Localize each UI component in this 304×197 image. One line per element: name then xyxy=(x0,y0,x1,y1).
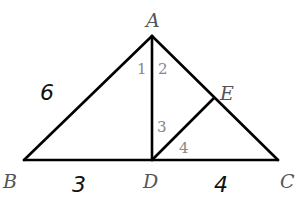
length-label-DC: 4 xyxy=(214,172,228,197)
point-label-B: B xyxy=(2,170,17,192)
angle-label-1: 1 xyxy=(137,60,147,78)
angle-label-2: 2 xyxy=(158,60,168,78)
length-label-BD: 3 xyxy=(72,172,86,197)
point-label-E: E xyxy=(219,82,234,104)
geometry-diagram: A B D C E 1 2 3 4 6 3 4 xyxy=(0,0,304,197)
point-label-C: C xyxy=(280,170,295,192)
triangle-figure: A B D C E 1 2 3 4 6 3 4 xyxy=(0,0,304,197)
angle-label-3: 3 xyxy=(157,118,167,136)
length-label-AB: 6 xyxy=(40,80,54,105)
angle-label-4: 4 xyxy=(179,139,189,157)
point-label-A: A xyxy=(144,9,160,31)
point-label-D: D xyxy=(142,170,158,192)
